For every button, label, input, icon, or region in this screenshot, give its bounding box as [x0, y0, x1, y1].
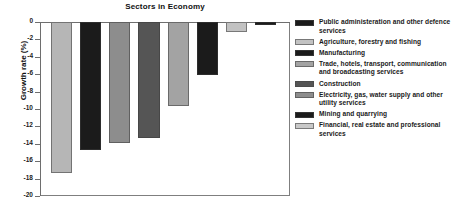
legend-item-label: Financial, real estate and professional … — [319, 121, 452, 138]
legend-item-label: Construction — [319, 80, 452, 89]
y-tick-label-text: -12 — [1, 122, 33, 129]
y-tick-label: -14 — [0, 140, 33, 148]
legend-item[interactable]: Agriculture, forestry and fishing — [295, 38, 452, 47]
legend-swatch-icon — [295, 50, 314, 56]
y-tick-label-text: -10 — [1, 105, 33, 112]
bar — [168, 22, 189, 106]
bar — [138, 22, 159, 138]
y-tick-label: -8 — [0, 88, 33, 96]
chart-title: Sectors in Economy — [40, 2, 290, 11]
legend-swatch-icon — [295, 61, 314, 67]
bar — [80, 22, 101, 150]
y-tick-label-text: -4 — [1, 53, 33, 60]
y-tick-mark — [35, 196, 40, 197]
legend-item[interactable]: Electricity, gas, water supply and other… — [295, 91, 452, 108]
y-tick-label: -2 — [0, 35, 33, 43]
legend-swatch-icon — [295, 92, 314, 98]
y-tick-label: -10 — [0, 105, 33, 113]
y-tick-label-text: -6 — [1, 70, 33, 77]
y-tick-label-text: -2 — [1, 35, 33, 42]
legend-swatch-icon — [295, 81, 314, 87]
y-tick-label-text: -8 — [1, 88, 33, 95]
bar — [197, 22, 218, 75]
y-tick-label-text: -20 — [1, 192, 33, 199]
bar — [51, 22, 72, 173]
chart-legend: Public administeration and other defence… — [295, 18, 452, 141]
y-tick-label-text: -18 — [1, 175, 33, 182]
y-axis-ticks: 0-2-4-6-8-10-12-14-16-18-20 — [0, 0, 40, 212]
legend-item-label: Electricity, gas, water supply and other… — [319, 91, 452, 108]
y-tick-label: -6 — [0, 70, 33, 78]
y-tick-label-text: 0 — [1, 18, 33, 25]
legend-swatch-icon — [295, 20, 314, 26]
y-tick-label: 0 — [0, 18, 33, 26]
legend-item[interactable]: Financial, real estate and professional … — [295, 121, 452, 138]
bar — [109, 22, 130, 143]
legend-item[interactable]: Public administeration and other defence… — [295, 18, 452, 35]
legend-item-label: Manufacturing — [319, 49, 452, 58]
y-tick-label: -20 — [0, 192, 33, 200]
bars-container — [40, 22, 290, 196]
legend-item[interactable]: Construction — [295, 80, 452, 89]
legend-item[interactable]: Mining and quarrying — [295, 110, 452, 119]
legend-item[interactable]: Manufacturing — [295, 49, 452, 58]
bar-chart-figure: Sectors in Economy Growth rate (%) 0-2-4… — [0, 0, 452, 212]
legend-item[interactable]: Trade, hotels, transport, communication … — [295, 60, 452, 77]
legend-item-label: Agriculture, forestry and fishing — [319, 38, 452, 47]
y-tick-label-text: -16 — [1, 157, 33, 164]
y-tick-label: -4 — [0, 53, 33, 61]
y-tick-label-text: -14 — [1, 140, 33, 147]
y-tick-label: -16 — [0, 157, 33, 165]
legend-swatch-icon — [295, 123, 314, 129]
legend-swatch-icon — [295, 39, 314, 45]
legend-item-label: Mining and quarrying — [319, 110, 452, 119]
bar — [226, 22, 247, 32]
legend-item-label: Public administeration and other defence… — [319, 18, 452, 35]
legend-item-label: Trade, hotels, transport, communication … — [319, 60, 452, 77]
bar — [255, 22, 276, 25]
legend-swatch-icon — [295, 112, 314, 118]
y-tick-label: -12 — [0, 122, 33, 130]
y-tick-label: -18 — [0, 175, 33, 183]
